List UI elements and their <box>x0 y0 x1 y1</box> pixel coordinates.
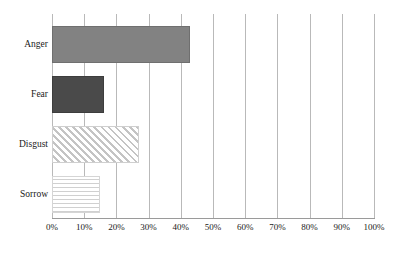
y-label-anger: Anger <box>2 40 48 50</box>
gridline-70 <box>277 14 278 218</box>
bar-chart: Anger Fear Disgust Sorrow 0% 10% 20% 30%… <box>0 0 399 258</box>
bar-fear <box>52 76 104 113</box>
x-tick-100: 100% <box>364 223 385 232</box>
x-tick-20: 20% <box>108 223 125 232</box>
gridline-100 <box>374 14 375 218</box>
x-tick-10: 10% <box>76 223 93 232</box>
x-tick-90: 90% <box>334 223 351 232</box>
x-tick-0: 0% <box>46 223 58 232</box>
x-tick-50: 50% <box>205 223 222 232</box>
x-axis-line <box>52 218 375 219</box>
bar-disgust <box>52 126 139 163</box>
y-axis-labels: Anger Fear Disgust Sorrow <box>0 0 48 258</box>
gridline-60 <box>245 14 246 218</box>
y-label-fear: Fear <box>2 90 48 100</box>
x-tick-30: 30% <box>140 223 157 232</box>
bar-sorrow <box>52 176 100 213</box>
y-label-sorrow: Sorrow <box>2 190 48 200</box>
gridline-80 <box>310 14 311 218</box>
gridline-90 <box>342 14 343 218</box>
x-tick-60: 60% <box>237 223 254 232</box>
plot-area <box>52 14 374 218</box>
bar-anger <box>52 26 190 63</box>
x-tick-40: 40% <box>173 223 190 232</box>
x-tick-80: 80% <box>301 223 318 232</box>
y-label-disgust: Disgust <box>2 140 48 150</box>
x-axis-labels: 0% 10% 20% 30% 40% 50% 60% 70% 80% 90% 1… <box>0 223 399 239</box>
x-tick-70: 70% <box>269 223 286 232</box>
gridline-50 <box>213 14 214 218</box>
